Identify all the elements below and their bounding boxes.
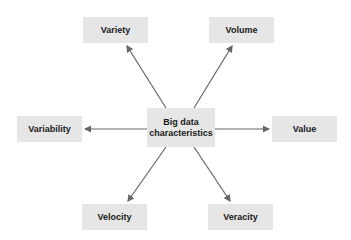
node-value: Value bbox=[272, 116, 337, 142]
node-volume: Volume bbox=[209, 17, 274, 43]
node-variability: Variability bbox=[17, 116, 82, 142]
arrow-to-veracity bbox=[194, 147, 230, 201]
center-label-line1: Big data bbox=[163, 117, 199, 128]
arrow-to-velocity bbox=[128, 147, 166, 201]
arrow-to-volume bbox=[194, 46, 232, 108]
center-label-line2: characteristics bbox=[149, 128, 213, 139]
node-variety: Variety bbox=[83, 17, 148, 43]
arrow-to-variety bbox=[127, 46, 166, 108]
node-veracity: Veracity bbox=[208, 204, 273, 230]
node-velocity: Velocity bbox=[82, 204, 147, 230]
node-center: Big data characteristics bbox=[147, 108, 215, 147]
